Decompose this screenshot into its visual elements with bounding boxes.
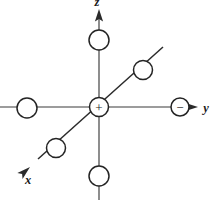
y-negative-site	[17, 98, 37, 118]
z-axis-label: z	[94, 0, 100, 9]
z-positive-site	[89, 30, 109, 50]
x-negative-diagonal-site	[134, 61, 153, 80]
x-axis-label: x	[24, 173, 31, 187]
y-axis-label: y	[201, 101, 209, 115]
coordinate-axes-figure: + − x y z	[0, 0, 222, 200]
y-positive-site-sign: −	[176, 100, 183, 115]
center-site-sign: +	[95, 100, 102, 115]
z-negative-site	[89, 166, 109, 186]
figure-canvas: + − x y z	[0, 0, 222, 200]
x-positive-diagonal-site	[47, 139, 66, 158]
